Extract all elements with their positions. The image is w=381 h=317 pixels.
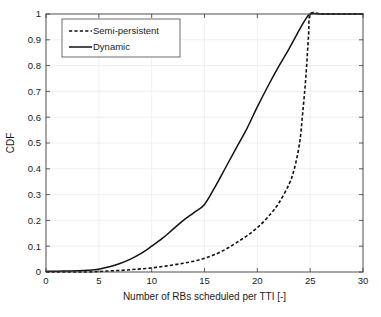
chart-legend: Semi-persistentDynamic [62, 19, 180, 57]
x-tick-label: 25 [305, 275, 316, 286]
y-tick-label: 0.4 [28, 163, 41, 174]
y-tick-label: 0.9 [28, 34, 41, 45]
x-axis-label: Number of RBs scheduled per TTI [-] [123, 291, 286, 302]
figure-background [0, 0, 381, 317]
x-tick-label: 30 [358, 275, 369, 286]
legend-label: Dynamic [93, 41, 130, 52]
y-tick-label: 0.8 [28, 60, 41, 71]
y-tick-label: 0.6 [28, 112, 41, 123]
legend-label: Semi-persistent [93, 25, 159, 36]
x-tick-label: 20 [252, 275, 263, 286]
y-tick-label: 0.3 [28, 189, 41, 200]
y-tick-label: 0.5 [28, 137, 41, 148]
y-tick-label: 0.2 [28, 215, 41, 226]
x-tick-label: 5 [96, 275, 101, 286]
chart-canvas: 05101520253000.10.20.30.40.50.60.70.80.9… [0, 0, 381, 317]
x-tick-label: 10 [146, 275, 157, 286]
y-tick-label: 0 [36, 266, 41, 277]
x-tick-label: 15 [199, 275, 210, 286]
y-tick-label: 0.7 [28, 86, 41, 97]
y-tick-label: 0.1 [28, 241, 41, 252]
x-tick-label: 0 [43, 275, 48, 286]
y-tick-label: 1 [36, 8, 41, 19]
y-axis-label: CDF [5, 133, 16, 154]
cdf-chart-figure: 05101520253000.10.20.30.40.50.60.70.80.9… [0, 0, 381, 317]
